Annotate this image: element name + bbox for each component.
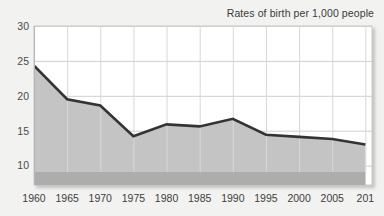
x-axis-tick-labels: 1960196519701975198019851990199520002005… (22, 192, 374, 204)
y-tick-label-10: 10 (17, 159, 29, 171)
y-tick-label-20: 20 (17, 90, 29, 102)
x-tick-label-1990: 1990 (221, 192, 245, 204)
x-tick-label-1995: 1995 (254, 192, 278, 204)
area-base-strip (34, 172, 365, 185)
x-tick-label-1965: 1965 (55, 192, 79, 204)
y-tick-label-25: 25 (17, 55, 29, 67)
x-tick-label-1960: 1960 (22, 192, 46, 204)
y-axis-tick-labels: 3025201510 (17, 20, 29, 171)
x-tick-label-1985: 1985 (188, 192, 212, 204)
x-tick-label-1975: 1975 (122, 192, 146, 204)
x-tick-label-2010: 201 (357, 192, 375, 204)
y-tick-label-15: 15 (17, 125, 29, 137)
x-tick-label-2005: 2005 (321, 192, 345, 204)
x-tick-label-2000: 2000 (287, 192, 311, 204)
x-tick-label-1970: 1970 (89, 192, 113, 204)
x-tick-label-1980: 1980 (155, 192, 179, 204)
chart-plot-area: 3025201510 19601965197019751980198519901… (0, 0, 384, 216)
y-tick-label-30: 30 (17, 20, 29, 32)
birth-rate-chart-figure: Rates of birth per 1,000 people (0, 0, 384, 216)
